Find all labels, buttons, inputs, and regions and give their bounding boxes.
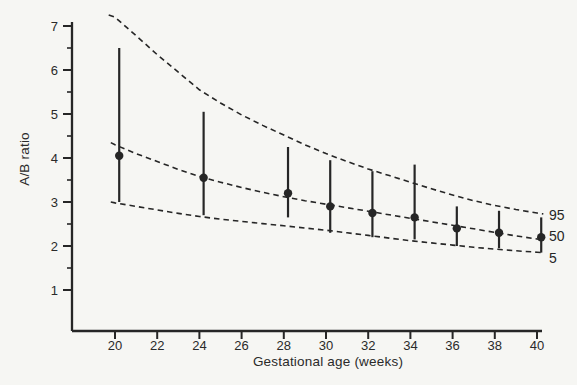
y-tick-label: 6 bbox=[51, 63, 58, 78]
x-tick-label: 30 bbox=[319, 338, 333, 353]
x-tick-label: 22 bbox=[150, 338, 164, 353]
mean-point-week-38 bbox=[495, 229, 503, 237]
x-tick-label: 32 bbox=[361, 338, 375, 353]
x-tick-label: 38 bbox=[488, 338, 502, 353]
percentile-curve-5 bbox=[111, 202, 544, 253]
x-axis-title: Gestational age (weeks) bbox=[218, 354, 438, 369]
chart-canvas: 12345672022242628303234363840 bbox=[0, 0, 577, 385]
percentile-5-label: 5 bbox=[549, 250, 575, 266]
mean-point-week-28 bbox=[284, 189, 292, 197]
x-tick-label: 34 bbox=[403, 338, 417, 353]
mean-point-week-36 bbox=[453, 224, 461, 232]
mean-point-week-20 bbox=[115, 152, 123, 160]
mean-point-week-34 bbox=[410, 213, 418, 221]
percentile-curve-50 bbox=[111, 143, 544, 240]
mean-point-week-24 bbox=[199, 174, 207, 182]
mean-point-week-30 bbox=[326, 202, 334, 210]
x-tick-label: 40 bbox=[530, 338, 544, 353]
y-axis-title: A/B ratio bbox=[17, 132, 32, 186]
percentile-50-label: 50 bbox=[549, 228, 575, 244]
y-tick-label: 7 bbox=[51, 19, 58, 34]
mean-point-week-32 bbox=[368, 209, 376, 217]
y-tick-label: 1 bbox=[51, 283, 58, 298]
y-tick-label: 5 bbox=[51, 107, 58, 122]
y-tick-label: 3 bbox=[51, 195, 58, 210]
x-tick-label: 24 bbox=[192, 338, 206, 353]
y-tick-label: 4 bbox=[51, 151, 58, 166]
percentile-curve-95 bbox=[109, 15, 544, 214]
percentile-95-label: 95 bbox=[549, 207, 575, 223]
mean-point-week-40 bbox=[537, 233, 545, 241]
x-tick-label: 36 bbox=[445, 338, 459, 353]
x-tick-label: 20 bbox=[108, 338, 122, 353]
y-tick-label: 2 bbox=[51, 239, 58, 254]
x-tick-label: 26 bbox=[234, 338, 248, 353]
scanned-chart-page: 12345672022242628303234363840 Gestationa… bbox=[0, 0, 577, 385]
axes-lines bbox=[72, 22, 542, 331]
x-tick-label: 28 bbox=[277, 338, 291, 353]
